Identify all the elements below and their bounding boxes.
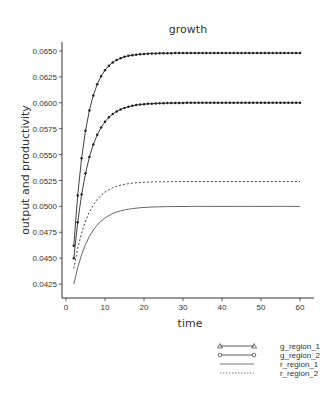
data-point-marker (73, 257, 76, 260)
data-point-marker (147, 52, 150, 55)
data-point-marker (178, 52, 181, 55)
x-tick-label: 20 (140, 303, 149, 312)
data-point-marker (252, 102, 255, 105)
data-point-marker (229, 52, 232, 55)
data-point-marker (299, 52, 302, 55)
legend-label: g_region_1 (280, 342, 321, 351)
data-point-marker (275, 102, 278, 105)
data-point-marker (84, 172, 87, 175)
data-point-marker (154, 52, 157, 55)
data-point-marker (240, 52, 243, 55)
series-r-region-1 (74, 206, 300, 284)
data-point-marker (158, 52, 161, 55)
data-point-marker (186, 52, 189, 55)
x-tick-label: 50 (257, 303, 266, 312)
data-point-marker (232, 52, 235, 55)
y-ticks: 0.04250.04500.04750.05000.05250.05500.05… (33, 47, 62, 289)
series-r-region-2 (74, 182, 300, 269)
data-point-marker (92, 94, 95, 97)
data-point-marker (256, 102, 259, 105)
data-point-marker (170, 102, 173, 105)
data-point-marker (299, 102, 302, 105)
data-point-marker (244, 52, 247, 55)
y-tick-label: 0.0500 (33, 202, 58, 211)
data-point-marker (232, 102, 235, 105)
data-point-marker (151, 52, 154, 55)
data-point-marker (143, 53, 146, 56)
data-point-marker (166, 52, 169, 55)
data-point-marker (271, 52, 274, 55)
data-point-marker (236, 102, 239, 105)
data-point-marker (197, 52, 200, 55)
data-point-marker (186, 102, 189, 105)
legend-item-r-region-2: r_region_2 (220, 369, 319, 378)
data-point-marker (147, 103, 150, 106)
data-point-marker (283, 52, 286, 55)
data-point-marker (76, 194, 79, 197)
data-point-marker (166, 102, 169, 105)
data-point-marker (193, 52, 196, 55)
data-point-marker (291, 102, 294, 105)
legend: g_region_1 g_region_2 r_region_1 r_regio… (218, 342, 321, 378)
chart-svg: growth 0.04250.04500.04750.05000.05250.0… (0, 0, 331, 397)
data-point-marker (127, 55, 130, 58)
data-point-marker (84, 129, 87, 132)
data-point-marker (225, 102, 228, 105)
data-point-marker (221, 102, 224, 105)
data-point-marker (244, 102, 247, 105)
data-point-marker (283, 102, 286, 105)
data-point-marker (205, 52, 208, 55)
y-tick-label: 0.0550 (33, 151, 58, 160)
data-point-marker (108, 64, 111, 67)
data-point-marker (201, 52, 204, 55)
data-point-marker (80, 193, 83, 196)
data-point-marker (108, 116, 111, 119)
y-axis-title: output and productivity (19, 105, 32, 235)
data-point-marker (190, 102, 193, 105)
data-point-marker (112, 61, 115, 64)
data-point-marker (201, 102, 204, 105)
data-point-marker (112, 113, 115, 116)
data-point-marker (143, 103, 146, 106)
data-point-marker (209, 52, 212, 55)
legend-item-g-region-2: g_region_2 (218, 351, 320, 360)
data-point-marker (119, 57, 122, 60)
data-point-marker (174, 102, 177, 105)
data-point-marker (248, 102, 251, 105)
data-point-marker (252, 52, 255, 55)
y-axis: 0.04250.04500.04750.05000.05250.05500.05… (33, 42, 62, 298)
data-point-marker (123, 107, 126, 110)
data-point-marker (151, 102, 154, 105)
data-point-marker (76, 221, 79, 224)
data-point-marker (115, 110, 118, 113)
chart-title: growth (169, 23, 207, 36)
legend-label: g_region_2 (280, 351, 321, 360)
data-point-marker (154, 102, 157, 105)
data-point-marker (236, 52, 239, 55)
x-tick-label: 60 (296, 303, 305, 312)
data-point-marker (158, 102, 161, 105)
data-point-marker (131, 105, 134, 108)
data-point-marker (170, 52, 173, 55)
data-point-marker (104, 121, 107, 124)
y-tick-label: 0.0650 (33, 47, 58, 56)
data-point-marker (213, 52, 216, 55)
data-point-marker (162, 52, 165, 55)
data-point-marker (260, 52, 263, 55)
data-point-marker (295, 102, 298, 105)
data-point-marker (104, 69, 107, 72)
series-g-region-2 (74, 103, 300, 258)
data-point-marker (182, 52, 185, 55)
y-tick-label: 0.0600 (33, 99, 58, 108)
plot-series (73, 52, 302, 284)
x-tick-label: 40 (218, 303, 227, 312)
data-point-marker (190, 52, 193, 55)
data-point-marker (287, 102, 290, 105)
data-point-marker (268, 102, 271, 105)
x-axis-title: time (178, 317, 203, 330)
y-tick-label: 0.0450 (33, 254, 58, 263)
data-point-marker (119, 108, 122, 111)
data-point-marker (100, 126, 103, 129)
data-point-marker (182, 102, 185, 105)
x-ticks: 0102030405060 (64, 298, 305, 312)
